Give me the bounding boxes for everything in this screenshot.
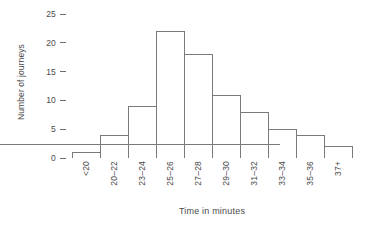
x-tick-label: 27–28 [192, 161, 204, 205]
y-tick: 25 [46, 8, 72, 20]
x-tick-label: 31–32 [248, 161, 260, 205]
y-tick-label: 0 [51, 152, 56, 164]
y-tick: 0 [51, 152, 72, 164]
x-tick-label: 37+ [332, 161, 344, 205]
bar [184, 54, 213, 158]
x-tick-label: 35–36 [304, 161, 316, 205]
y-tick-dash [60, 42, 66, 43]
y-tick-label: 15 [46, 66, 56, 78]
y-tick-label: 20 [46, 37, 56, 49]
bar [212, 95, 241, 158]
bar [240, 112, 269, 158]
y-tick-dash [60, 100, 66, 101]
x-tick-label: 25–26 [164, 161, 176, 205]
x-axis-baseline [0, 144, 280, 145]
y-tick-label: 10 [46, 94, 56, 106]
y-tick-label: 5 [51, 123, 56, 135]
x-tick-cell: <20 [72, 161, 100, 205]
x-tick-cell: 29–30 [212, 161, 240, 205]
y-tick: 5 [51, 123, 72, 135]
y-tick: 20 [46, 37, 72, 49]
y-axis-ticks: 0510152025 [0, 0, 72, 227]
y-tick-dash [60, 158, 66, 159]
y-tick: 10 [46, 94, 72, 106]
x-tick-cell: 31–32 [240, 161, 268, 205]
y-tick-dash [60, 71, 66, 72]
x-tick-label: 20–22 [108, 161, 120, 205]
x-tick-cell: 35–36 [296, 161, 324, 205]
x-axis-title: Time in minutes [72, 206, 352, 216]
x-tick-label: 33–34 [276, 161, 288, 205]
x-tick-cell: 37+ [324, 161, 352, 205]
x-tick-cell: 25–26 [156, 161, 184, 205]
x-axis-tick-labels: <2020–2223–2425–2627–2829–3031–3233–3435… [72, 161, 352, 205]
x-tick-label: 23–24 [136, 161, 148, 205]
x-tick-cell: 23–24 [128, 161, 156, 205]
x-tick-label: 29–30 [220, 161, 232, 205]
bar [324, 146, 353, 158]
bar [128, 106, 157, 158]
plot-area [72, 14, 352, 158]
bar [156, 31, 185, 158]
bar [100, 135, 129, 158]
y-tick-label: 25 [46, 8, 56, 20]
y-tick-dash [60, 129, 66, 130]
histogram-figure: Number of journeys 0510152025 <2020–2223… [0, 0, 377, 227]
y-tick-dash [60, 14, 66, 15]
bar-series [72, 14, 352, 158]
y-tick: 15 [46, 66, 72, 78]
x-tick-cell: 27–28 [184, 161, 212, 205]
x-tick-cell: 20–22 [100, 161, 128, 205]
x-tick-label: <20 [80, 161, 92, 205]
bar [296, 135, 325, 158]
bar [72, 152, 101, 158]
x-tick-cell: 33–34 [268, 161, 296, 205]
